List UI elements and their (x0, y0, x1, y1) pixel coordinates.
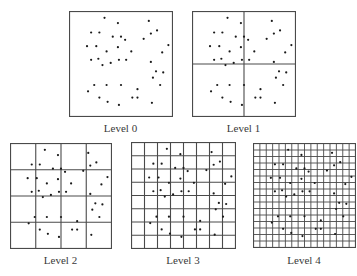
data-point (94, 202, 96, 204)
data-point (277, 215, 279, 217)
data-point (156, 29, 158, 31)
data-point (44, 149, 46, 151)
data-point (274, 102, 276, 104)
data-point (155, 70, 157, 72)
data-point (303, 167, 305, 169)
data-point (259, 88, 261, 90)
data-point (350, 176, 352, 178)
data-point (152, 190, 154, 192)
data-point (117, 22, 119, 24)
data-point (167, 44, 169, 46)
data-point (281, 189, 283, 191)
level-label: Level 0 (69, 122, 172, 134)
data-point (31, 191, 33, 193)
data-point (271, 221, 273, 223)
data-point (168, 216, 170, 218)
data-point (339, 161, 341, 163)
data-point (285, 71, 287, 73)
grid-box (10, 143, 112, 249)
grid-panel-level-4 (253, 143, 356, 248)
data-point (87, 90, 89, 92)
data-point (161, 228, 163, 230)
data-point (182, 216, 184, 218)
data-point (240, 46, 242, 48)
data-point (39, 229, 41, 231)
data-point (120, 84, 122, 86)
data-point (193, 182, 195, 184)
data-point (221, 31, 223, 33)
data-point (27, 177, 29, 179)
data-point (97, 58, 99, 60)
grid-panel-level-2 (10, 143, 112, 249)
data-point (89, 193, 91, 195)
data-point (182, 167, 184, 169)
data-point (333, 192, 335, 194)
data-point (243, 36, 245, 38)
data-point (118, 104, 120, 106)
data-point (228, 84, 230, 86)
data-point (90, 31, 92, 33)
data-point (287, 149, 289, 151)
data-point (279, 177, 281, 179)
data-point (216, 84, 218, 86)
data-point (125, 59, 127, 61)
data-point (130, 50, 132, 52)
data-point (52, 168, 54, 170)
data-point (117, 46, 119, 48)
data-point (150, 61, 152, 63)
data-point (228, 50, 230, 52)
data-point (274, 163, 276, 165)
data-point (161, 163, 163, 165)
data-point (241, 104, 243, 106)
data-point (143, 38, 145, 40)
data-point (91, 209, 93, 211)
data-point (179, 177, 181, 179)
data-point (278, 70, 280, 72)
level-label: Level 4 (253, 254, 355, 266)
data-point (254, 97, 256, 99)
data-point (226, 17, 228, 19)
data-point (213, 192, 215, 194)
data-point (57, 178, 59, 180)
data-point (301, 190, 303, 192)
data-point (290, 44, 292, 46)
data-point (136, 88, 138, 90)
data-point (218, 45, 220, 47)
data-point (93, 84, 95, 86)
data-point (98, 31, 100, 33)
data-point (136, 97, 138, 99)
data-point (50, 194, 52, 196)
data-point (224, 183, 226, 185)
data-point (344, 183, 346, 185)
data-point (110, 62, 112, 64)
grid-box (131, 142, 236, 249)
data-point (345, 203, 347, 205)
data-point (289, 215, 291, 217)
data-point (95, 161, 97, 163)
data-point (266, 38, 268, 40)
data-point (103, 17, 105, 19)
box-border (70, 12, 173, 117)
data-point (213, 31, 215, 33)
data-point (282, 84, 284, 86)
data-point (76, 229, 78, 231)
data-point (187, 170, 189, 172)
grid-box (69, 11, 173, 117)
data-point (240, 22, 242, 24)
data-point (309, 190, 311, 192)
data-point (118, 59, 120, 61)
data-point (205, 169, 207, 171)
data-point (199, 228, 201, 230)
data-point (155, 216, 157, 218)
data-point (100, 183, 102, 185)
data-point (168, 182, 170, 184)
data-point (159, 84, 161, 86)
data-point (76, 220, 78, 222)
data-point (166, 148, 168, 150)
data-point (210, 90, 212, 92)
data-point (148, 20, 150, 22)
data-point (320, 219, 322, 221)
level-label: Level 1 (192, 122, 295, 134)
data-point (46, 182, 48, 184)
data-point (28, 222, 30, 224)
